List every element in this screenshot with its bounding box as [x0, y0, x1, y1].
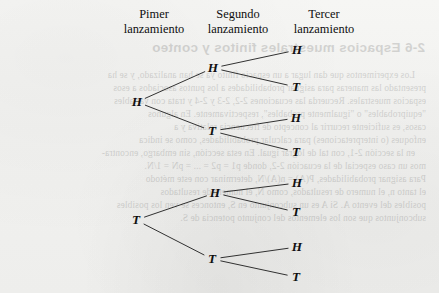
- tree-branch-line: [221, 133, 288, 150]
- tree-node-label: T: [132, 213, 140, 226]
- tree-node-label: T: [208, 252, 216, 265]
- tree-node-label: H: [292, 240, 302, 253]
- tree-branch-line: [222, 52, 288, 66]
- tree-branch-line: [221, 248, 288, 257]
- tree-node-label: H: [210, 186, 220, 199]
- tree-node-label: T: [208, 124, 216, 137]
- tree-node-label: H: [208, 61, 218, 74]
- tree-branch-line: [224, 195, 287, 210]
- tree-node-label: T: [292, 270, 300, 283]
- tree-node-label: H: [132, 95, 142, 108]
- tree-branch-line: [144, 224, 204, 255]
- tree-node-label: T: [292, 80, 300, 93]
- tree-node-label: H: [292, 176, 302, 189]
- tree-node-label: T: [292, 145, 300, 158]
- tree-node-label: T: [292, 205, 300, 218]
- tree-edge-group: [144, 52, 288, 275]
- tree-branch-line: [222, 70, 287, 85]
- tree-branch-line: [224, 184, 288, 192]
- tree-node-label: H: [291, 111, 301, 124]
- tree-branch-line: [145, 196, 207, 217]
- tree-branch-line: [145, 72, 205, 99]
- tree-branch-line: [145, 105, 203, 128]
- probability-tree-diagram: [0, 0, 439, 293]
- tree-branch-line: [221, 119, 287, 129]
- tree-node-label: H: [292, 43, 302, 56]
- scanned-textbook-page: 2-6 Espacios muestrales finitos y conteo…: [0, 0, 439, 293]
- tree-branch-line: [221, 261, 287, 275]
